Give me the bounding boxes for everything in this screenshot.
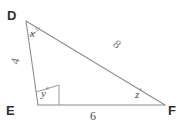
angle-label-y: y° bbox=[41, 87, 49, 99]
geometry-diagram: D E F x° y° z° 4 8 6 bbox=[0, 0, 183, 127]
degree-symbol-x: ° bbox=[35, 26, 38, 34]
vertex-label-d: D bbox=[7, 9, 16, 22]
side-label-ef: 6 bbox=[90, 110, 96, 122]
angle-label-z: z° bbox=[135, 88, 142, 100]
vertex-label-e: E bbox=[6, 104, 15, 117]
vertex-label-f: F bbox=[168, 104, 176, 117]
angle-label-x: x° bbox=[30, 27, 38, 39]
degree-symbol-z: ° bbox=[139, 87, 142, 95]
degree-symbol-y: ° bbox=[46, 86, 49, 94]
triangle-drawing bbox=[0, 0, 183, 127]
